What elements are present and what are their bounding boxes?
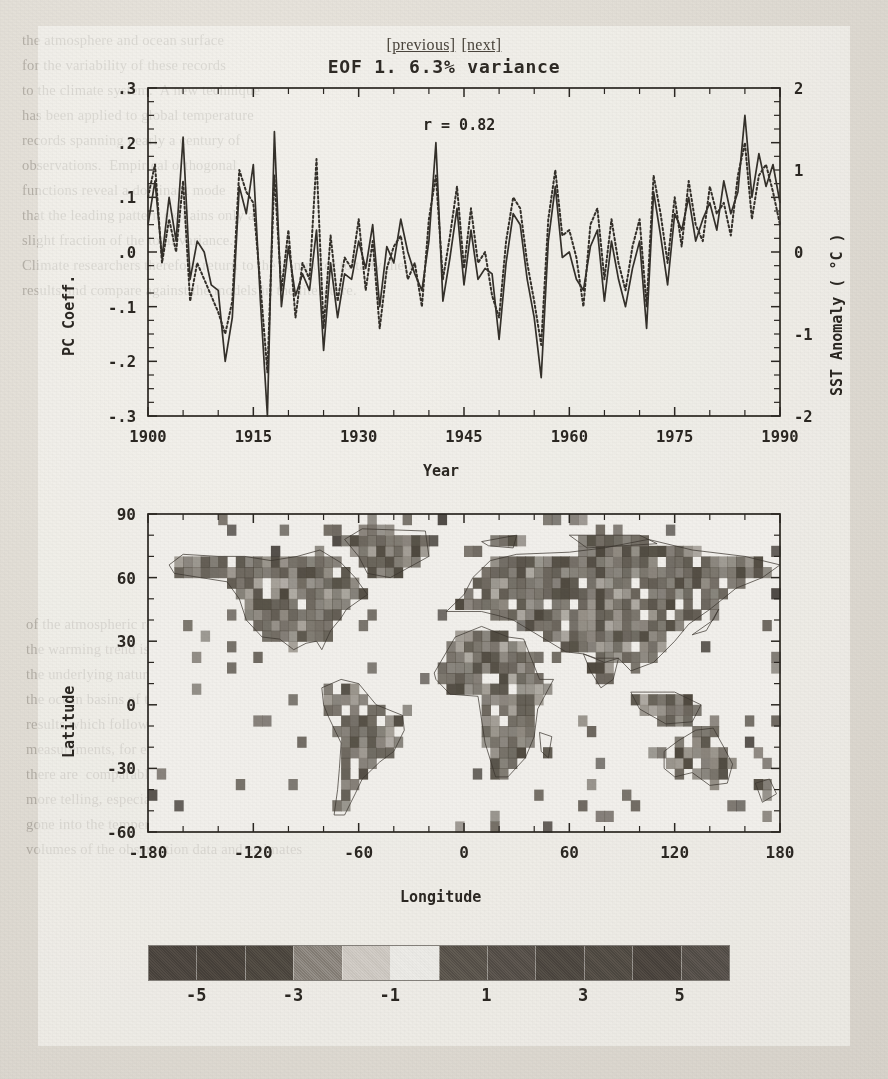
colorbar-tick-label: -5 [186, 985, 206, 1005]
map-grid-cell [622, 588, 631, 599]
y-tick-label: .3 [117, 80, 136, 98]
map-grid-cell [736, 567, 745, 578]
map-grid-cell [271, 599, 280, 610]
longitude-axis-label: Longitude [400, 888, 481, 906]
map-grid-cell [578, 609, 587, 620]
map-grid-cell [719, 588, 728, 599]
map-grid-cell [657, 599, 666, 610]
map-grid-cell [499, 737, 508, 748]
map-grid-cell [508, 641, 517, 652]
map-grid-cell [499, 758, 508, 769]
map-grid-cell [464, 684, 473, 695]
map-grid-cell [490, 567, 499, 578]
colorbar-tick-label: 5 [675, 985, 685, 1005]
map-grid-cell [692, 737, 701, 748]
y-tick-label: .0 [117, 244, 136, 262]
map-grid-cell [631, 631, 640, 642]
map-grid-cell [675, 768, 684, 779]
map-grid-cell [367, 546, 376, 557]
map-grid-cell [508, 715, 517, 726]
map-grid-cell [666, 694, 675, 705]
map-grid-cell [359, 535, 368, 546]
colorbar-segment [245, 946, 293, 980]
map-grid-cell [253, 652, 262, 663]
map-grid-cell [341, 715, 350, 726]
map-grid-cell [683, 556, 692, 567]
map-x-tick-label: 120 [660, 843, 689, 862]
map-grid-cell [710, 556, 719, 567]
map-grid-cell [701, 768, 710, 779]
map-grid-cell [446, 673, 455, 684]
map-grid-cell [578, 567, 587, 578]
map-grid-cell [490, 684, 499, 695]
map-grid-cell [403, 705, 412, 716]
map-grid-cell [473, 652, 482, 663]
map-grid-cell [332, 705, 341, 716]
x-tick-label: 1975 [656, 428, 693, 446]
map-grid-cell [552, 567, 561, 578]
map-grid-cell [376, 556, 385, 567]
map-grid-cell [464, 631, 473, 642]
colorbar-segment [632, 946, 680, 980]
map-grid-cell [587, 556, 596, 567]
map-grid-cell [376, 737, 385, 748]
map-grid-cell [403, 535, 412, 546]
map-grid-cell [464, 662, 473, 673]
map-grid-cell [569, 620, 578, 631]
map-grid-cell [253, 567, 262, 578]
map-grid-cell [306, 620, 315, 631]
x-tick-label: 1945 [445, 428, 482, 446]
map-grid-cell [525, 556, 534, 567]
map-grid-cell [367, 556, 376, 567]
map-grid-cell [517, 652, 526, 663]
map-grid-cell [209, 567, 218, 578]
map-grid-cell [297, 567, 306, 578]
map-grid-cell [569, 641, 578, 652]
map-grid-cell [350, 684, 359, 695]
map-grid-cell [561, 631, 570, 642]
map-y-tick-label: 90 [117, 505, 136, 524]
map-grid-cell [736, 556, 745, 567]
map-grid-cell [429, 535, 438, 546]
map-grid-cell [490, 556, 499, 567]
map-grid-cell [517, 567, 526, 578]
map-grid-cell [683, 609, 692, 620]
map-grid-cell [262, 567, 271, 578]
map-grid-cell [596, 758, 605, 769]
colorbar-tick-label: 1 [481, 985, 491, 1005]
map-grid-cell [482, 662, 491, 673]
map-grid-cell [517, 588, 526, 599]
map-grid-cell [306, 567, 315, 578]
map-grid-cell [631, 800, 640, 811]
map-grid-cell [675, 620, 684, 631]
map-grid-cell [280, 525, 289, 536]
map-grid-cell [324, 556, 333, 567]
map-grid-cell [648, 631, 657, 642]
map-grid-cell [482, 631, 491, 642]
map-grid-cell [245, 599, 254, 610]
map-x-tick-label: -60 [344, 843, 373, 862]
map-grid-cell [701, 758, 710, 769]
map-grid-cell [578, 556, 587, 567]
map-grid-cell [710, 747, 719, 758]
map-grid-cell [367, 715, 376, 726]
map-grid-cell [262, 599, 271, 610]
map-grid-cell [367, 662, 376, 673]
map-grid-cell [482, 599, 491, 610]
map-grid-cell [517, 535, 526, 546]
map-grid-cell [201, 567, 210, 578]
map-grid-cell [525, 578, 534, 589]
map-grid-cell [288, 578, 297, 589]
map-grid-cell [517, 599, 526, 610]
map-grid-cell [613, 546, 622, 557]
map-grid-cell [367, 747, 376, 758]
map-grid-cell [701, 599, 710, 610]
map-grid-cell [640, 705, 649, 716]
map-grid-cell [332, 535, 341, 546]
map-x-tick-label: 60 [560, 843, 579, 862]
map-grid-cell [727, 567, 736, 578]
map-grid-cell [359, 715, 368, 726]
map-grid-cell [482, 652, 491, 663]
map-grid-cell [359, 726, 368, 737]
map-grid-cell [315, 567, 324, 578]
